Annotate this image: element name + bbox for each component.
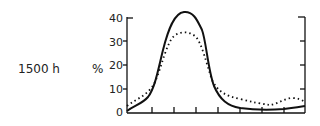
solid-series-line (127, 12, 305, 111)
dotted-series-line (127, 32, 305, 106)
line-chart (0, 0, 320, 126)
axes (123, 17, 305, 113)
